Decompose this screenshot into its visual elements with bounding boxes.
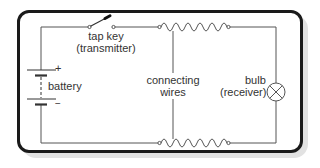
wires-label: wires	[140, 86, 206, 98]
tap-key-label: tap key	[78, 30, 134, 42]
coil-top	[161, 23, 227, 31]
connecting-label: connecting	[140, 74, 206, 86]
bulb-label: bulb	[245, 74, 266, 86]
coil-bottom-terminal-left	[158, 141, 161, 144]
coil-top-terminal-left	[158, 25, 161, 28]
tap-key-switch-icon	[88, 16, 115, 29]
battery-plus-sign: +	[55, 62, 61, 74]
receiver-label: (receiver)	[220, 86, 266, 98]
wire-right-bottom	[230, 101, 276, 143]
coil-top-terminal-right	[227, 25, 230, 28]
transmitter-label: (transmitter)	[68, 42, 144, 54]
bulb-icon	[267, 83, 285, 101]
battery-label: battery	[48, 80, 82, 92]
battery-minus-sign: −	[55, 98, 61, 110]
coil-bottom	[161, 139, 227, 147]
coil-bottom-terminal-right	[227, 141, 230, 144]
